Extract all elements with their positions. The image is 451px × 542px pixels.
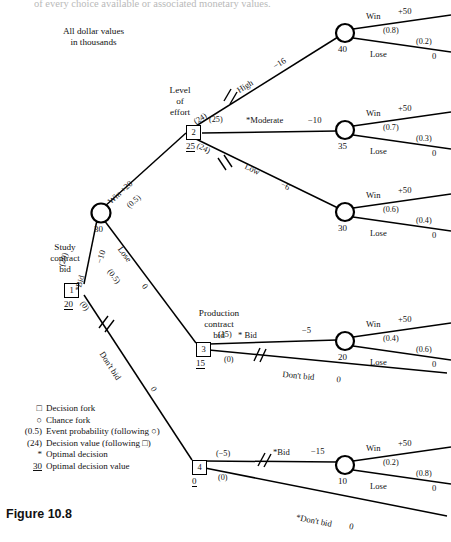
branch-3-bid-decision-value: (15)	[218, 331, 232, 339]
chance-node-10-value: 10	[338, 476, 347, 486]
chance-node-30b-value: 30	[338, 223, 347, 233]
legend-key-event-probability: (0.5)	[12, 426, 42, 438]
decision-node-4[interactable]: 4	[192, 460, 207, 475]
legend-item-optimal-decision-value: 30Optimal decision value	[12, 461, 160, 473]
outcome-20-win-label: Win	[366, 320, 380, 329]
outcome-20-win-payoff: +50	[398, 315, 411, 324]
legend-key-optimal-decision-value: 30	[12, 461, 42, 473]
node-2-title: Level of effort	[158, 85, 202, 118]
legend-item-event-probability: (0.5)Event probability (following ○)	[12, 426, 160, 438]
node-3-title-line2: contract	[204, 319, 234, 329]
outcome-30b-lose-payoff: 0	[432, 231, 436, 240]
chance-node-35-value: 35	[338, 141, 347, 151]
branch-moderate-payoff: −10	[308, 116, 321, 125]
outcome-35-win-label: Win	[366, 109, 380, 118]
outcome-30b-win-payoff: +50	[398, 186, 411, 195]
branch-3-bid-payoff: −5	[302, 326, 311, 335]
outcome-20-lose-payoff: 0	[432, 360, 436, 369]
legend-text-event-probability: Event probability (following ○)	[46, 426, 160, 436]
figure-caption: Figure 10.8	[6, 507, 72, 521]
outcome-30b-win-probability: (0.6)	[383, 206, 399, 214]
outcome-20-lose-probability: (0.6)	[416, 346, 432, 354]
legend-text-optimal-decision: Optimal decision	[46, 449, 108, 459]
outcome-10-win-payoff: +50	[398, 439, 411, 448]
node-2-title-line3: effort	[170, 107, 190, 117]
decision-node-2-value: 25	[186, 141, 195, 152]
node-2-title-line2: of	[176, 96, 184, 106]
node-1-title-line1: Study	[54, 242, 75, 252]
legend-key-decision-fork: □	[12, 403, 42, 415]
branch-moderate-decision-value: (25)	[209, 116, 223, 124]
branch-3-bid-label: * Bid	[238, 331, 257, 340]
chance-node-20	[336, 332, 354, 350]
decision-node-2[interactable]: 2	[186, 125, 201, 140]
branch-4-bid-payoff: −15	[311, 447, 324, 456]
decision-tree-figure: of every choice available or associated …	[0, 0, 451, 542]
outcome-40-lose-payoff: 0	[432, 52, 436, 61]
branch-4-bid-label: *Bid	[273, 448, 290, 457]
outcome-40-win-payoff: +50	[398, 7, 411, 16]
legend: □Decision fork ○Chance fork (0.5)Event p…	[12, 403, 160, 473]
legend-item-decision-fork: □Decision fork	[12, 403, 160, 415]
legend-key-decision-value: (24)	[12, 438, 42, 450]
legend-text-decision-value: Decision value (following □)	[46, 438, 151, 448]
chance-node-40	[336, 24, 354, 42]
outcome-40-win-label: Win	[366, 12, 380, 21]
chance-node-30b	[336, 203, 354, 221]
chance-node-35	[336, 121, 354, 139]
outcome-10-lose-label: Lose	[370, 482, 387, 491]
node-3-title-line1: Production	[199, 308, 239, 318]
outcome-10-win-probability: (0.2)	[383, 459, 399, 467]
branch-3-dontbid-payoff: 0	[336, 375, 341, 384]
outcome-35-win-payoff: +50	[398, 104, 411, 113]
decision-node-1-value: 20	[64, 299, 73, 310]
legend-key-chance-fork: ○	[12, 415, 42, 427]
outcome-10-lose-payoff: 0	[432, 484, 436, 493]
units-note-line1: All dollar values	[63, 26, 124, 36]
outcome-40-lose-probability: (0.2)	[416, 38, 432, 46]
units-note-line2: in thousands	[70, 37, 116, 47]
legend-item-optimal-decision: *Optimal decision	[12, 449, 160, 461]
branch-moderate-label: *Moderate	[246, 116, 283, 125]
node-2-title-line1: Level	[170, 85, 191, 95]
outcome-10-win-label: Win	[366, 444, 380, 453]
outcome-30b-lose-label: Lose	[370, 229, 387, 238]
outcome-10-lose-probability: (0.8)	[416, 470, 432, 478]
units-note: All dollar values in thousands	[36, 26, 151, 48]
branch-4-bid-decision-value: (−5)	[216, 450, 230, 458]
outcome-30b-lose-probability: (0.4)	[416, 217, 432, 225]
chance-node-30-value: 30	[94, 224, 103, 234]
legend-text-chance-fork: Chance fork	[46, 415, 90, 425]
chance-node-30	[92, 204, 111, 223]
outcome-40-lose-label: Lose	[370, 50, 387, 59]
branch-3-dontbid-decision-value: (0)	[224, 356, 234, 364]
chance-node-10	[336, 456, 354, 474]
outcome-20-win-probability: (0.4)	[383, 335, 399, 343]
legend-text-optimal-decision-value: Optimal decision value	[46, 461, 129, 471]
outcome-35-lose-label: Lose	[370, 147, 387, 156]
chance-node-20-value: 20	[338, 352, 347, 362]
legend-item-decision-value: (24)Decision value (following □)	[12, 438, 160, 450]
branch-4-dontbid-decision-value: (0)	[218, 474, 228, 482]
outcome-30b-win-label: Win	[366, 191, 380, 200]
outcome-40-win-probability: (0.8)	[383, 27, 399, 35]
outcome-20-lose-label: Lose	[370, 358, 387, 367]
outcome-35-lose-probability: (0.3)	[416, 135, 432, 143]
outcome-35-lose-payoff: 0	[432, 149, 436, 158]
decision-node-3-value: 15	[196, 358, 205, 369]
legend-key-optimal-decision: *	[12, 449, 42, 461]
outcome-35-win-probability: (0.7)	[383, 124, 399, 132]
decision-node-3[interactable]: 3	[196, 342, 211, 357]
legend-text-decision-fork: Decision fork	[46, 403, 95, 413]
legend-item-chance-fork: ○Chance fork	[12, 415, 160, 427]
chance-node-40-value: 40	[338, 44, 347, 54]
decision-node-4-value: 0	[192, 476, 197, 487]
